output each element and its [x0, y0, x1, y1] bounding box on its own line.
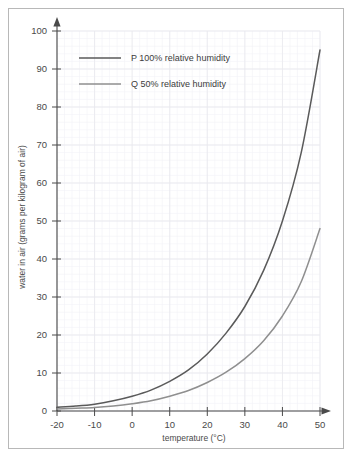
x-tick-label: 40 — [277, 419, 288, 430]
x-axis-title: temperature (°C) — [162, 433, 226, 443]
x-axis-tick-labels: -20-1001020304050 — [50, 419, 325, 430]
y-tick-label: 90 — [36, 63, 47, 74]
y-tick-label: 80 — [36, 101, 47, 112]
figure-frame: 0102030405060708090100 -20-1001020304050… — [8, 8, 344, 449]
y-tick-label: 30 — [36, 291, 47, 302]
y-tick-label: 10 — [36, 367, 47, 378]
data-series-group — [57, 50, 320, 409]
series-line-q — [57, 229, 320, 410]
y-axis-title: water in air (grams per kilogram of air) — [17, 145, 27, 290]
x-tick-label: 0 — [129, 419, 134, 430]
x-tick-label: 20 — [202, 419, 213, 430]
humidity-line-chart: 0102030405060708090100 -20-1001020304050… — [9, 9, 343, 448]
x-tick-label: 50 — [315, 419, 326, 430]
x-tick-label: -20 — [50, 419, 64, 430]
y-axis-tick-labels: 0102030405060708090100 — [31, 25, 47, 416]
legend-label-p: P 100% relative humidity — [131, 53, 230, 63]
legend-label-q: Q 50% relative humidity — [131, 79, 227, 89]
y-axis-arrow-icon — [53, 17, 60, 27]
y-tick-label: 100 — [31, 25, 47, 36]
x-tick-label: 10 — [164, 419, 175, 430]
x-tick-label: -10 — [88, 419, 102, 430]
x-axis-arrow-icon — [322, 407, 332, 414]
y-tick-label: 60 — [36, 177, 47, 188]
x-tick-label: 30 — [240, 419, 251, 430]
y-tick-label: 0 — [42, 405, 47, 416]
y-tick-label: 70 — [36, 139, 47, 150]
y-tick-label: 20 — [36, 329, 47, 340]
y-tick-label: 50 — [36, 215, 47, 226]
y-tick-label: 40 — [36, 253, 47, 264]
